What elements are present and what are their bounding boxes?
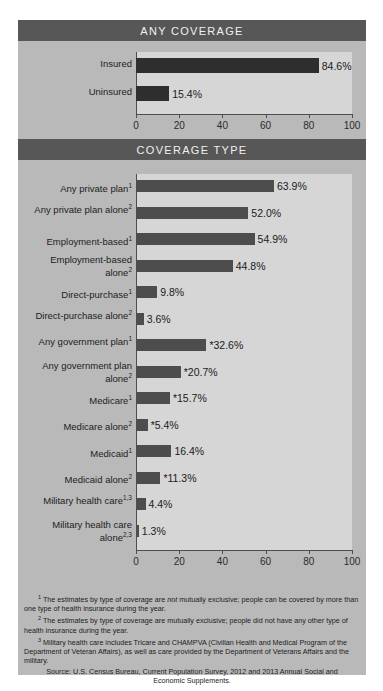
bar-value-label: 63.9% — [277, 180, 307, 192]
footnote: 1 The estimates by type of coverage are … — [18, 593, 366, 613]
bar — [136, 180, 274, 192]
bar-row: Any government plan alone2*20.7% — [18, 366, 366, 378]
bar-row: Any government plan1*32.6% — [18, 339, 366, 351]
bar — [136, 525, 139, 537]
bar-value-label: 4.4% — [149, 498, 173, 510]
bar — [136, 207, 248, 219]
bar-row: Medicaid alone2*11.3% — [18, 472, 366, 484]
bar — [136, 445, 171, 457]
section-header-coverage-type: COVERAGE TYPE — [18, 139, 366, 160]
chart-panel-coverage-type: Any private plan163.9%Any private plan a… — [18, 160, 366, 592]
bar-row: Direct-purchase19.8% — [18, 286, 366, 298]
bar — [136, 472, 160, 484]
bar-row: Uninsured15.4% — [18, 86, 366, 101]
bar — [136, 286, 157, 298]
bar-value-label: *32.6% — [209, 339, 243, 351]
bar — [136, 260, 233, 272]
bar-row: Any private plan alone252.0% — [18, 207, 366, 219]
x-tick — [136, 114, 137, 118]
bar-category-label: Medicare alone2 — [24, 419, 132, 433]
x-axis-label: 0 — [121, 120, 151, 131]
bar — [136, 392, 170, 404]
y-axis-line-2 — [136, 174, 137, 550]
source-note: Source: U.S. Census Bureau, Current Popu… — [18, 667, 366, 685]
bar-row: Employment-based154.9% — [18, 233, 366, 245]
bar-value-label: 15.4% — [172, 88, 202, 100]
bar-category-label: Military health care1,3 — [24, 493, 132, 507]
bar-value-label: 44.8% — [236, 260, 266, 272]
bar-value-label: *15.7% — [173, 392, 207, 404]
bar-category-label: Medicare1 — [24, 393, 132, 407]
x-tick — [222, 550, 223, 554]
bar-row: Military health care alone2,31.3% — [18, 525, 366, 537]
x-tick — [266, 550, 267, 554]
bar-category-label: Employment-based1 — [24, 234, 132, 248]
bar-category-label: Medicaid1 — [24, 446, 132, 460]
bar-category-label: Any private plan alone2 — [24, 202, 132, 216]
bar-category-label: Military health care alone2,3 — [24, 520, 132, 544]
bar-value-label: 1.3% — [142, 525, 166, 537]
x-tick — [179, 550, 180, 554]
chart-panel-any-coverage: Insured84.6%Uninsured15.4% 020406080100 — [18, 41, 366, 139]
x-axis-label: 40 — [207, 556, 237, 567]
bar — [136, 233, 255, 245]
bar — [136, 419, 148, 431]
bar — [136, 339, 206, 351]
x-axis-line-1 — [136, 114, 352, 115]
x-axis-label: 80 — [294, 556, 324, 567]
bar-row: Medicare1*15.7% — [18, 392, 366, 404]
bar-value-label: 9.8% — [160, 286, 184, 298]
bar-row: Employment-based alone244.8% — [18, 260, 366, 272]
bar-value-label: 52.0% — [251, 207, 281, 219]
x-axis-label: 100 — [337, 120, 367, 131]
footnote: 3 Military health care includes Tricare … — [18, 636, 366, 665]
bar-row: Direct-purchase alone23.6% — [18, 313, 366, 325]
bar — [136, 58, 319, 73]
x-tick — [309, 550, 310, 554]
x-axis-label: 60 — [251, 120, 281, 131]
footnotes-block: 1 The estimates by type of coverage are … — [18, 592, 366, 675]
bar-category-label: Any government plan1 — [24, 334, 132, 348]
bar-value-label: 54.9% — [258, 233, 288, 245]
bar-row: Military health care1,34.4% — [18, 498, 366, 510]
bar-value-label: *5.4% — [151, 419, 179, 431]
x-axis-label: 20 — [164, 556, 194, 567]
x-axis-label: 0 — [121, 556, 151, 567]
bar-category-label: Direct-purchase alone2 — [24, 308, 132, 322]
bar-row: Insured84.6% — [18, 58, 366, 73]
x-tick — [222, 114, 223, 118]
bar-value-label: 16.4% — [174, 445, 204, 457]
bar-category-label: Direct-purchase1 — [24, 287, 132, 301]
x-tick — [352, 114, 353, 118]
bar-category-label: Uninsured — [24, 87, 132, 98]
x-axis-label: 100 — [337, 556, 367, 567]
x-axis-label: 80 — [294, 120, 324, 131]
x-axis-line-2 — [136, 550, 352, 551]
plot-area-coverage-type — [136, 174, 352, 550]
footnote: 2 The estimates by type of coverage are … — [18, 614, 366, 634]
x-axis-label: 40 — [207, 120, 237, 131]
x-axis-label: 20 — [164, 120, 194, 131]
x-tick — [309, 114, 310, 118]
bar-category-label: Medicaid alone2 — [24, 472, 132, 486]
x-tick — [352, 550, 353, 554]
bar-value-label: *11.3% — [163, 472, 196, 484]
x-tick — [266, 114, 267, 118]
bar — [136, 498, 146, 510]
bar-row: Medicare alone2*5.4% — [18, 419, 366, 431]
bar-row: Medicaid116.4% — [18, 445, 366, 457]
bar-category-label: Any government plan alone2 — [24, 361, 132, 385]
bar-row: Any private plan163.9% — [18, 180, 366, 192]
bar-value-label: 84.6% — [322, 60, 352, 72]
bar — [136, 366, 181, 378]
bar — [136, 313, 144, 325]
bar — [136, 86, 169, 101]
bar-value-label: *20.7% — [184, 366, 218, 378]
section-header-any-coverage: ANY COVERAGE — [18, 20, 366, 41]
x-tick — [136, 550, 137, 554]
bar-category-label: Any private plan1 — [24, 181, 132, 195]
figure-container: ANY COVERAGE Insured84.6%Uninsured15.4% … — [18, 20, 366, 675]
bar-category-label: Employment-based alone2 — [24, 255, 132, 279]
x-axis-label: 60 — [251, 556, 281, 567]
bar-category-label: Insured — [24, 59, 132, 70]
